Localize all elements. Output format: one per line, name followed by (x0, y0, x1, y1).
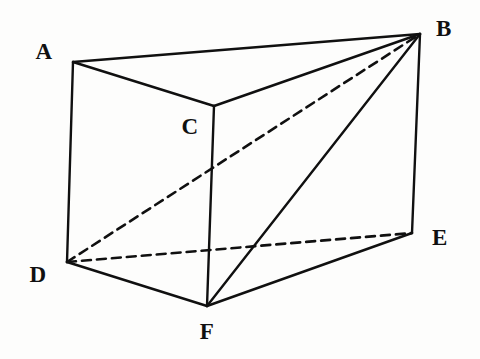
edge-ad (67, 62, 73, 262)
vertex-label-f: F (200, 320, 215, 343)
vertex-label-e: E (432, 226, 448, 249)
vertex-label-c: C (181, 115, 198, 138)
vertex-label-d: D (29, 263, 46, 286)
edge-fe (207, 233, 412, 306)
edge-df (67, 262, 207, 306)
edge-cf (207, 106, 214, 306)
edge-be (412, 34, 420, 233)
diagram-canvas: ABCDEF (0, 0, 480, 359)
vertex-label-b: B (436, 17, 452, 40)
edge-ac (73, 62, 214, 106)
edge-de (67, 233, 412, 262)
edge-db (67, 34, 420, 262)
edge-fb (207, 34, 420, 306)
edge-ab (73, 34, 420, 62)
vertex-label-a: A (35, 40, 52, 63)
edge-cb (214, 34, 420, 106)
prism-drawing (0, 0, 480, 359)
